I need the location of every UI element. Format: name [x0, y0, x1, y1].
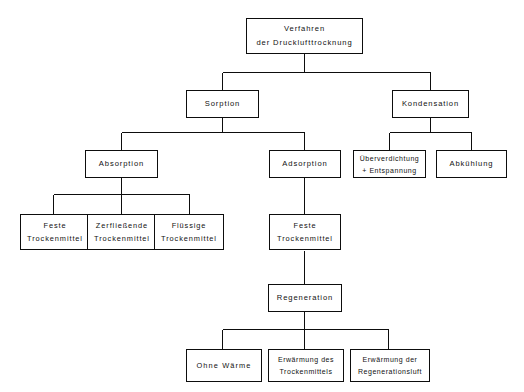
node-erwaermung-der-regenerationsluft[interactable]: Erwärmung der Regenerationsluft	[350, 349, 430, 382]
node-line-1: Erwärmung der	[362, 356, 417, 363]
node-line-2: Trockenmittel	[161, 235, 217, 242]
node-feste-trockenmittel-adsorption[interactable]: Feste Trockenmittel	[269, 214, 341, 250]
node-line-1: Regeneration	[277, 294, 333, 302]
node-line-2: Regenerationsluft	[358, 368, 422, 375]
node-line-1: Überverdichtung	[360, 155, 420, 162]
node-fluessige-trockenmittel[interactable]: Flüssige Trockenmittel	[154, 214, 224, 250]
node-ohne-waerme[interactable]: Ohne Wärme	[186, 349, 262, 382]
node-line-2: der Drucklufttrocknung	[256, 39, 352, 47]
node-absorption[interactable]: Absorption	[85, 150, 158, 178]
node-kondensation[interactable]: Kondensation	[392, 90, 469, 118]
node-ueberverdichtung-entspannung[interactable]: Überverdichtung + Entspannung	[353, 150, 426, 178]
node-line-1: Feste	[294, 222, 317, 229]
node-line-2: Trockenmittel	[94, 235, 150, 242]
node-verfahren-der-drucklufttrocknung[interactable]: Verfahren der Drucklufttrocknung	[246, 18, 363, 54]
node-line-1: Verfahren	[284, 25, 325, 33]
node-abkuehlung[interactable]: Abkühlung	[436, 150, 507, 178]
node-regeneration[interactable]: Regeneration	[268, 284, 342, 312]
node-line-1: Abkühlung	[450, 160, 494, 168]
connector-layer	[0, 0, 524, 392]
node-adsorption[interactable]: Adsorption	[269, 150, 341, 178]
node-line-2: + Entspannung	[362, 167, 416, 174]
node-line-1: Absorption	[99, 160, 144, 168]
node-line-2: Trockenmittels	[280, 368, 333, 375]
node-sorption[interactable]: Sorption	[186, 90, 259, 118]
node-erwaermung-des-trockenmittels[interactable]: Erwärmung des Trockenmittels	[268, 349, 344, 382]
node-line-1: Sorption	[205, 100, 240, 108]
node-feste-trockenmittel-absorption[interactable]: Feste Trockenmittel	[20, 214, 90, 250]
node-line-1: Erwärmung des	[278, 356, 334, 363]
node-line-1: Adsorption	[282, 160, 327, 168]
node-line-2: Trockenmittel	[277, 235, 333, 242]
node-line-1: Ohne Wärme	[197, 362, 252, 369]
flowchart-diagram: Verfahren der Drucklufttrocknung Sorptio…	[0, 0, 524, 392]
node-line-2: Trockenmittel	[27, 235, 83, 242]
node-line-1: Kondensation	[402, 100, 459, 108]
node-line-1: Zerfließende	[96, 222, 148, 229]
node-line-1: Flüssige	[172, 222, 207, 229]
node-line-1: Feste	[44, 222, 67, 229]
node-zerfliessende-trockenmittel[interactable]: Zerfließende Trockenmittel	[87, 214, 157, 250]
